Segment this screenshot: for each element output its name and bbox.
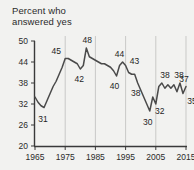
y-tick-label-26: 26 xyxy=(19,120,29,130)
point-label-1982: 48 xyxy=(83,35,93,45)
y-tick-label-44: 44 xyxy=(19,57,29,67)
point-label-2005: 32 xyxy=(155,106,165,116)
point-label-1995: 43 xyxy=(130,56,140,66)
point-label-1975: 45 xyxy=(51,46,61,56)
y-tick-label-50: 50 xyxy=(19,36,29,46)
x-axis-ticks: 196519751985199520052015 xyxy=(26,146,194,162)
point-label-2015: 37 xyxy=(179,74,189,84)
point-label-1999: 38 xyxy=(131,88,141,98)
y-tick-label-38: 38 xyxy=(19,78,29,88)
x-tick-label-2015: 2015 xyxy=(177,152,194,162)
x-tick-label-1985: 1985 xyxy=(86,152,105,162)
y-axis-ticks: 202632384450 xyxy=(19,36,35,151)
point-label-2003: 30 xyxy=(143,117,153,127)
point-label-1992: 40 xyxy=(110,81,120,91)
y-tick-label-32: 32 xyxy=(19,99,29,109)
chart-container: Percent who answered yes 202632384450 19… xyxy=(0,0,194,170)
x-tick-label-1995: 1995 xyxy=(116,152,135,162)
x-tick-label-2005: 2005 xyxy=(146,152,165,162)
y-tick-label-20: 20 xyxy=(19,141,29,151)
point-label-2014: 35 xyxy=(187,96,194,106)
point-label-1994: 44 xyxy=(115,49,125,59)
point-label-2008: 38 xyxy=(160,70,170,80)
point-label-1980: 42 xyxy=(75,74,85,84)
point-label-1968: 31 xyxy=(38,114,48,124)
line-chart-plot: 202632384450 196519751985199520052015 31… xyxy=(0,0,194,170)
gridlines xyxy=(65,36,186,146)
x-tick-label-1965: 1965 xyxy=(26,152,45,162)
x-tick-label-1975: 1975 xyxy=(56,152,75,162)
data-point-labels: 3145424840444338303238383735 xyxy=(38,35,194,127)
